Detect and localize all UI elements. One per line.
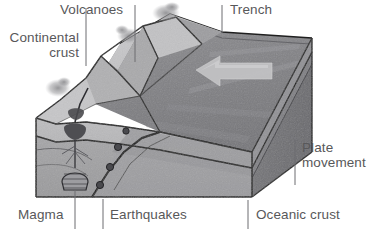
earthquake-focus [114, 143, 121, 150]
label-volcanoes: Volcanoes [60, 2, 123, 17]
label-plate-movement: Plate movement [302, 140, 366, 170]
label-oceanic-crust: Oceanic crust [256, 207, 340, 222]
label-trench: Trench [230, 2, 272, 17]
magma-source [62, 173, 88, 190]
label-continental-crust: Continental crust [0, 30, 79, 60]
earthquake-focus [96, 181, 103, 188]
subduction-zone-diagram: Volcanoes Continental crust Trench Plate… [0, 0, 370, 243]
label-earthquakes: Earthquakes [110, 207, 187, 222]
label-magma: Magma [18, 207, 64, 222]
earthquake-focus [106, 163, 113, 170]
